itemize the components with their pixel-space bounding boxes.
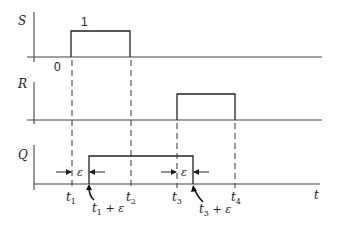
t1-plus-epsilon-annotation: t1 + ε bbox=[86, 184, 124, 217]
origin-zero-label: 0 bbox=[54, 60, 61, 74]
time-axis-label: t bbox=[314, 188, 319, 202]
epsilon-annotation-t1: ε bbox=[56, 166, 105, 179]
t4-label: t4 bbox=[231, 190, 241, 206]
s-high-value-label: 1 bbox=[81, 15, 88, 29]
signal-s: S 1 0 bbox=[18, 12, 322, 74]
epsilon-annotation-t3: ε bbox=[161, 166, 209, 179]
epsilon-label: ε bbox=[181, 166, 187, 179]
s-pulse bbox=[71, 31, 130, 57]
epsilon-label: ε bbox=[77, 166, 83, 179]
arrowhead-icon bbox=[191, 185, 197, 192]
arrowhead-icon bbox=[86, 184, 92, 190]
r-pulse bbox=[177, 94, 235, 120]
q-pulse bbox=[89, 156, 193, 184]
signal-q: Q t bbox=[18, 145, 320, 202]
signal-s-label: S bbox=[18, 14, 26, 28]
time-marker-lines bbox=[72, 60, 235, 188]
t1-plus-epsilon-label: t1 + ε bbox=[92, 201, 124, 217]
t2-label: t2 bbox=[126, 190, 136, 206]
t3-plus-epsilon-label: t3 + ε bbox=[199, 202, 231, 218]
t1-label: t1 bbox=[66, 190, 76, 206]
sr-latch-timing-diagram: S 1 0 R Q t ε ε t1 t2 bbox=[0, 0, 344, 228]
signal-r-label: R bbox=[17, 77, 27, 91]
t3-label: t3 bbox=[172, 190, 182, 206]
t3-plus-epsilon-annotation: t3 + ε bbox=[191, 185, 231, 218]
signal-r: R bbox=[17, 77, 322, 124]
signal-q-label: Q bbox=[18, 148, 28, 162]
